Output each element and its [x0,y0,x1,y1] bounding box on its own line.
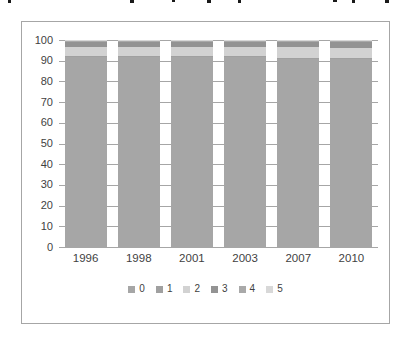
bar-segment-series-5 [171,40,213,41]
legend-swatch-0 [128,286,135,293]
stacked-bar-1998 [118,40,160,247]
bar-segment-series-3 [65,42,107,47]
y-tick-label-60: 60 [25,117,53,128]
x-tick-label-2003: 2003 [218,252,272,264]
bar-segment-series-4 [65,41,107,42]
x-tick-label-2010: 2010 [324,252,378,264]
stacked-bar-2010 [330,40,372,247]
cropped-text-mark [8,0,11,3]
legend-item-3: 3 [211,284,228,294]
bar-segment-series-5 [65,40,107,41]
stacked-bar-2003 [224,40,266,247]
x-tick-label-2001: 2001 [165,252,219,264]
bar-segment-series-1 [65,56,107,57]
bar-segment-series-5 [330,40,372,41]
legend-item-2: 2 [183,284,200,294]
legend-label-3: 3 [222,284,228,294]
cropped-text-mark [333,0,337,2]
bar-segment-series-5 [118,40,160,41]
legend-item-4: 4 [239,284,256,294]
bar-segment-series-4 [330,41,372,42]
legend-swatch-1 [156,286,163,293]
y-tick-label-0: 0 [25,242,53,253]
bar-segment-series-2 [118,47,160,55]
bar-segment-series-0 [65,57,107,247]
legend-item-5: 5 [266,284,283,294]
bar-segment-series-4 [118,41,160,42]
x-tick-label-1996: 1996 [59,252,113,264]
bar-segment-series-1 [330,58,372,59]
bar-segment-series-2 [65,47,107,55]
y-tick-label-70: 70 [25,97,53,108]
bar-segment-series-2 [277,47,319,57]
bar-segment-series-3 [171,42,213,47]
bar-segment-series-0 [171,57,213,247]
legend-swatch-5 [266,286,273,293]
bar-segment-series-1 [277,58,319,59]
legend-label-4: 4 [250,284,256,294]
bar-segment-series-4 [224,41,266,42]
legend-swatch-3 [211,286,218,293]
y-tick-label-50: 50 [25,138,53,149]
bar-segment-series-3 [224,42,266,47]
legend-label-2: 2 [194,284,200,294]
bar-segment-series-1 [171,56,213,57]
legend-item-0: 0 [128,284,145,294]
legend-item-1: 1 [156,284,173,294]
cropped-text-mark [352,0,355,3]
y-tick-label-10: 10 [25,221,53,232]
bar-segment-series-5 [277,40,319,41]
gridline-0 [59,247,378,248]
cropped-text-mark [238,0,241,3]
cropped-text-mark [130,0,134,3]
cropped-text-mark [207,0,211,3]
chart-box: 0102030405060708090100 19961998200120032… [21,21,390,324]
bar-segment-series-2 [171,47,213,55]
bar-segment-series-0 [277,59,319,247]
bar-segment-series-3 [277,42,319,47]
bar-segment-series-3 [330,42,372,48]
y-tick-label-100: 100 [25,35,53,46]
legend-label-0: 0 [139,284,145,294]
bar-segment-series-4 [171,41,213,42]
y-tick-label-20: 20 [25,200,53,211]
bar-segment-series-2 [224,47,266,55]
bar-segment-series-0 [118,57,160,247]
x-tick-label-1998: 1998 [112,252,166,264]
stacked-bar-1996 [65,40,107,247]
bar-segment-series-3 [118,42,160,47]
bar-segment-series-5 [224,40,266,41]
bar-segment-series-0 [224,57,266,247]
bar-segment-series-1 [224,56,266,57]
bar-segment-series-1 [118,56,160,57]
bar-segment-series-2 [330,48,372,57]
bar-segment-series-0 [330,59,372,247]
stacked-bar-2007 [277,40,319,247]
legend-swatch-2 [183,286,190,293]
cropped-text-mark [385,0,389,3]
legend-label-1: 1 [167,284,173,294]
legend-swatch-4 [239,286,246,293]
y-tick-label-40: 40 [25,159,53,170]
legend-label-5: 5 [277,284,283,294]
stacked-bar-2001 [171,40,213,247]
page: 0102030405060708090100 19961998200120032… [0,0,412,349]
x-tick-label-2007: 2007 [271,252,325,264]
legend: 012345 [22,284,389,294]
y-tick-label-90: 90 [25,55,53,66]
cropped-text-mark [172,0,175,2]
bar-segment-series-4 [277,41,319,42]
y-tick-label-80: 80 [25,76,53,87]
y-tick-label-30: 30 [25,179,53,190]
